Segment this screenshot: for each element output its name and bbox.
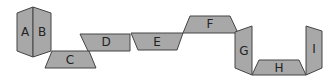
face-label: F [207,17,214,31]
face-label: B [38,25,46,39]
face-b: B [33,7,51,57]
face-f: F [183,16,238,33]
face-a: A [17,7,33,57]
face-label: I [312,42,316,56]
face-label: G [239,44,248,58]
face-label: D [101,35,110,49]
face-c: C [45,51,96,68]
face-e: E [131,33,183,50]
face-i: I [306,26,322,75]
face-d: D [80,34,130,51]
face-label: H [274,61,283,75]
face-label: E [153,35,161,49]
net-diagram: ABCDEFGHI [0,0,336,83]
face-label: A [21,25,30,39]
face-g: G [235,26,252,75]
face-h: H [252,60,306,75]
face-label: C [66,53,74,67]
